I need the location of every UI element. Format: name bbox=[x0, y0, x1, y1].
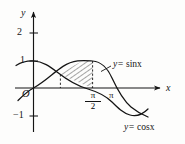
sine-label-leader bbox=[101, 66, 111, 72]
origin-label: O bbox=[22, 89, 30, 100]
y-tick-label-1: 1 bbox=[20, 55, 25, 65]
cosine-curve-label: y= cosx bbox=[124, 123, 154, 133]
sine-label-prefix: y= bbox=[113, 59, 124, 69]
half-pi-denominator: 2 bbox=[85, 102, 101, 111]
y-axis-label: y bbox=[21, 8, 25, 18]
half-pi-numerator: π bbox=[85, 91, 101, 100]
y-tick-label-neg1: −1 bbox=[13, 110, 24, 120]
x-tick-label-half-pi: π 2 bbox=[85, 91, 101, 112]
math-graph-figure: y x O 2 1 −1 π 2 π y= sinx y= cosx bbox=[0, 0, 185, 144]
sine-curve-label: y= sinx bbox=[113, 60, 142, 70]
cosine-label-function: cosx bbox=[137, 122, 154, 132]
x-axis-label: x bbox=[166, 83, 170, 93]
x-tick-label-pi: π bbox=[109, 91, 114, 100]
sine-label-function: sinx bbox=[126, 59, 142, 69]
cosine-label-prefix: y= bbox=[124, 122, 135, 132]
y-tick-label-2: 2 bbox=[17, 27, 22, 37]
graph-canvas bbox=[0, 0, 185, 144]
